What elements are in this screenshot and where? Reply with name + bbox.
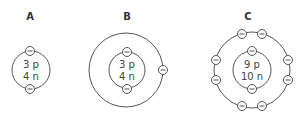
atom-b: B 3 p 4 n [89,11,168,107]
electron-icon [212,76,221,85]
atom-a-neutrons: 4 n [23,71,39,82]
atom-c-protons: 9 p [244,59,260,70]
atom-b-label: B [123,11,131,22]
electron-icon [284,76,293,85]
atom-c: C 9 p 10 n [212,11,293,111]
electron-icon [248,85,257,94]
atom-c-outer-shell [214,32,290,108]
atom-c-label: C [244,11,251,22]
atom-b-protons: 3 p [119,59,135,70]
atom-a-label: A [26,11,34,22]
atom-a: A 3 p 4 n [12,11,50,94]
electron-icon [123,85,132,94]
electron-icon [238,102,247,111]
electron-icon [159,66,168,75]
electron-icon [26,85,35,94]
electron-icon [284,56,293,65]
electron-icon [248,47,257,56]
electron-icon [238,30,247,39]
atom-a-inner-shell [12,51,50,89]
electron-icon [258,30,267,39]
electron-icon [123,48,132,57]
atom-c-inner-shell [233,51,271,89]
electron-icon [26,47,35,56]
atom-b-inner-shell [109,52,145,88]
atom-b-outer-shell [89,33,163,107]
atom-c-neutrons: 10 n [241,71,263,82]
electron-icon [212,56,221,65]
atom-a-protons: 3 p [23,59,39,70]
electron-icon [258,102,267,111]
atom-diagram: A 3 p 4 n B 3 p 4 n C 9 p 10 n [0,0,301,116]
atom-b-neutrons: 4 n [119,71,135,82]
